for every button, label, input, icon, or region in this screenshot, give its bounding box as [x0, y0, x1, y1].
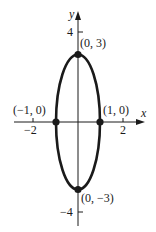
x-tick-label-2: 2 — [120, 123, 126, 137]
point-1-0 — [96, 118, 103, 125]
x-axis-label: x — [140, 106, 147, 120]
y-tick-label-neg4: −4 — [60, 205, 73, 219]
y-axis-label: y — [68, 7, 75, 21]
point-label-0-3: (0, 3) — [80, 36, 106, 50]
point-label-neg1-0: (−1, 0) — [13, 103, 46, 117]
y-axis-arrow-icon — [75, 11, 81, 20]
point-neg1-0 — [52, 118, 59, 125]
y-tick-label-4: 4 — [67, 25, 73, 39]
point-0-3 — [74, 51, 81, 58]
point-label-0-neg3: (0, −3) — [81, 191, 114, 205]
ellipse-diagram: y x −2 2 4 −4 (0, 3) (1, 0) (−1, 0) (0, … — [0, 0, 156, 232]
point-label-1-0: (1, 0) — [103, 103, 129, 117]
x-tick-label-neg2: −2 — [24, 123, 37, 137]
graph-svg: y x −2 2 4 −4 (0, 3) (1, 0) (−1, 0) (0, … — [0, 0, 156, 232]
